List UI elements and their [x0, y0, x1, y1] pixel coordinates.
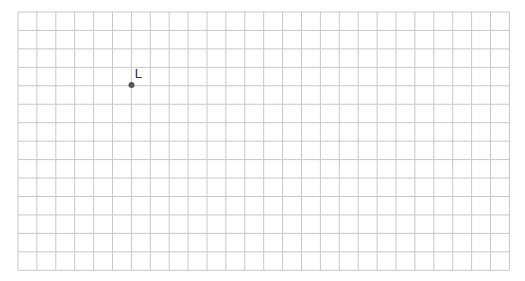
point-label: L [135, 66, 142, 81]
grid-paper [0, 0, 525, 281]
point-marker [129, 82, 135, 88]
